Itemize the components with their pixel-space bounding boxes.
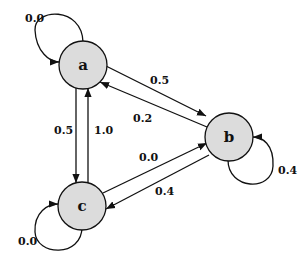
edge-b-a: 0.2 (100, 82, 207, 127)
edge-label-a-c: 0.5 (54, 124, 73, 137)
edge-a-c: 0.5 (54, 88, 76, 183)
node-label-a: a (78, 56, 88, 74)
node-a: a (59, 41, 107, 89)
edge-label-a-b: 0.5 (150, 74, 169, 87)
edge-label-c-a: 1.0 (94, 124, 113, 137)
node-label-b: b (224, 128, 235, 146)
edge-label-a-a: 0.0 (25, 12, 44, 25)
node-label-c: c (77, 197, 86, 215)
markov-chain-diagram: 0.0 0.5 0.2 0.5 1.0 0.0 0. (0, 0, 308, 267)
edge-label-c-c: 0.0 (18, 235, 37, 248)
edge-label-c-b: 0.0 (139, 151, 158, 164)
edge-c-a: 1.0 (88, 88, 113, 183)
edge-label-b-c: 0.4 (155, 185, 174, 198)
node-c: c (58, 182, 106, 230)
edge-label-b-a: 0.2 (133, 112, 152, 125)
edge-label-b-b: 0.4 (278, 164, 297, 177)
node-b: b (205, 113, 253, 161)
